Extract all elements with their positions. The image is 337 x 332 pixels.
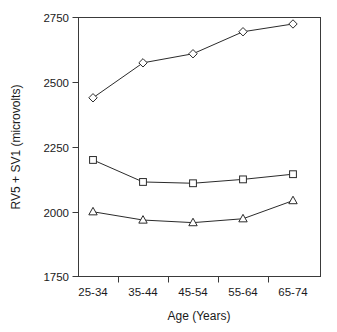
y-tick-label-2250: 2250 — [43, 142, 69, 154]
square-series-marker-4 — [290, 171, 297, 178]
plot-frame — [79, 18, 321, 277]
y-axis-ticks — [73, 18, 79, 277]
chart-container: 2750 2500 2250 2000 1750 25-34 35-44 45-… — [0, 0, 337, 332]
x-axis-ticks — [119, 277, 269, 283]
line-chart: 2750 2500 2250 2000 1750 25-34 35-44 45-… — [0, 0, 337, 332]
triangle-series-marker-4 — [289, 196, 297, 204]
diamond-series-marker-2 — [189, 50, 197, 58]
square-series — [90, 157, 297, 187]
y-tick-label-2750: 2750 — [43, 12, 69, 24]
x-tick-label-3: 55-64 — [228, 286, 258, 298]
y-tick-label-2000: 2000 — [43, 207, 69, 219]
diamond-series-marker-4 — [289, 20, 297, 28]
x-tick-label-4: 65-74 — [278, 286, 308, 298]
diamond-series-marker-0 — [89, 94, 97, 102]
x-tick-label-0: 25-34 — [78, 286, 108, 298]
square-series-marker-3 — [240, 176, 247, 183]
diamond-series-marker-3 — [239, 28, 247, 36]
triangle-series — [89, 196, 297, 226]
y-tick-label-2500: 2500 — [43, 77, 69, 89]
x-axis-title: Age (Years) — [168, 309, 231, 323]
x-tick-label-2: 45-54 — [178, 286, 208, 298]
square-series-marker-2 — [190, 180, 197, 187]
square-series-marker-0 — [90, 157, 97, 164]
triangle-series-marker-0 — [89, 207, 97, 215]
diamond-series-line — [93, 24, 293, 98]
diamond-series-marker-1 — [139, 59, 147, 67]
square-series-marker-1 — [140, 179, 147, 186]
diamond-series — [89, 20, 297, 102]
series-layer — [89, 20, 297, 226]
y-tick-label-1750: 1750 — [43, 271, 69, 283]
x-tick-label-1: 35-44 — [128, 286, 158, 298]
y-axis-title: RV5 + SV1 (microvolts) — [9, 85, 23, 210]
